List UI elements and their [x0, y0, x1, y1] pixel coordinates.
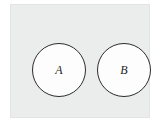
set-label-a: A [55, 64, 63, 76]
set-circle-a: A [32, 43, 86, 97]
universal-set-rectangle: A B [10, 4, 150, 118]
set-label-b: B [120, 64, 128, 76]
set-circle-b: B [97, 43, 151, 97]
venn-diagram: A B [0, 0, 160, 123]
